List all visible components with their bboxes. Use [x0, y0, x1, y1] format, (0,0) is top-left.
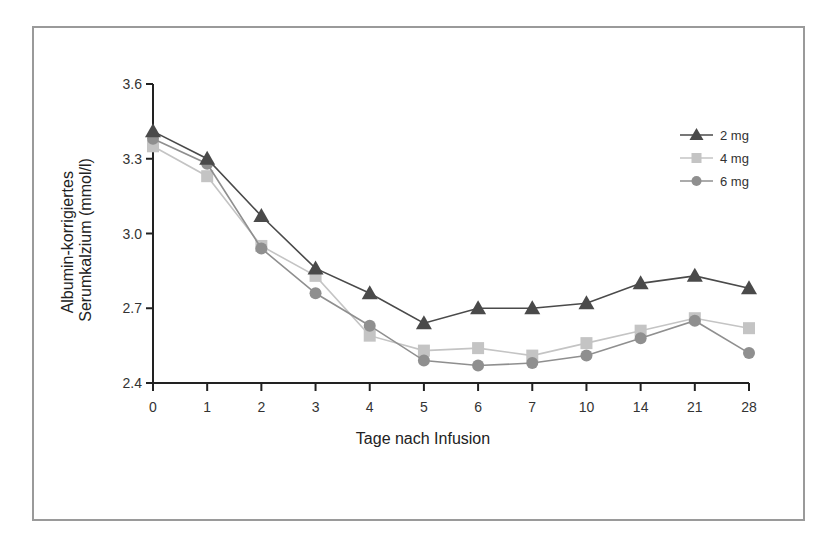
- circle-marker: [580, 350, 592, 362]
- circle-marker: [743, 347, 755, 359]
- legend-item: 2 mg: [680, 128, 749, 143]
- circle-marker: [364, 320, 376, 332]
- y-axis-title: Albumin-korrigiertes Serumkalzium (mmol/…: [59, 158, 94, 322]
- legend-item: 4 mg: [680, 151, 749, 166]
- triangle-marker: [687, 268, 703, 282]
- square-marker: [201, 170, 213, 182]
- y-tick-label: 3.3: [123, 151, 143, 167]
- square-marker: [692, 153, 702, 163]
- circle-marker: [418, 355, 430, 367]
- series-line: [153, 146, 749, 355]
- y-tick-label: 2.7: [123, 300, 143, 316]
- square-marker: [743, 322, 755, 334]
- legend-label: 6 mg: [720, 174, 749, 189]
- x-tick-label: 21: [687, 399, 703, 415]
- legend-label: 4 mg: [720, 151, 749, 166]
- series-line: [153, 139, 749, 366]
- circle-marker: [692, 176, 702, 186]
- triangle-marker: [470, 300, 486, 314]
- series-line: [153, 131, 749, 323]
- y-tick-label: 2.4: [123, 375, 143, 391]
- x-tick-label: 6: [474, 399, 482, 415]
- y-axis-title-line-2: Serumkalzium (mmol/l): [77, 158, 94, 322]
- triangle-marker: [199, 151, 215, 165]
- y-tick-label: 3.6: [123, 76, 143, 92]
- triangle-marker: [578, 295, 594, 309]
- line-chart: 2.42.73.03.33.60123456710142128 2 mg4 mg…: [0, 0, 826, 550]
- series-6-mg: [147, 133, 755, 372]
- x-axis-title: Tage nach Infusion: [356, 430, 490, 447]
- triangle-marker: [690, 128, 704, 140]
- x-tick-label: 10: [579, 399, 595, 415]
- triangle-marker: [362, 285, 378, 299]
- series-group: [145, 123, 757, 371]
- circle-marker: [689, 315, 701, 327]
- circle-marker: [255, 242, 267, 254]
- x-tick-label: 5: [420, 399, 428, 415]
- circle-marker: [472, 360, 484, 372]
- axes: 2.42.73.03.33.60123456710142128: [123, 76, 757, 415]
- circle-marker: [310, 287, 322, 299]
- circle-marker: [635, 332, 647, 344]
- series-2-mg: [145, 123, 757, 329]
- x-tick-label: 28: [741, 399, 757, 415]
- series-4-mg: [147, 140, 755, 361]
- triangle-marker: [145, 123, 161, 137]
- legend-label: 2 mg: [720, 128, 749, 143]
- x-tick-label: 1: [203, 399, 211, 415]
- y-tick-label: 3.0: [123, 226, 143, 242]
- x-tick-label: 0: [149, 399, 157, 415]
- x-tick-label: 3: [312, 399, 320, 415]
- legend: 2 mg4 mg6 mg: [680, 128, 749, 189]
- square-marker: [580, 337, 592, 349]
- x-tick-label: 14: [633, 399, 649, 415]
- legend-item: 6 mg: [680, 174, 749, 189]
- x-tick-label: 7: [528, 399, 536, 415]
- x-tick-label: 2: [257, 399, 265, 415]
- circle-marker: [526, 357, 538, 369]
- square-marker: [472, 342, 484, 354]
- x-tick-label: 4: [366, 399, 374, 415]
- y-axis-title-line-1: Albumin-korrigiertes: [59, 171, 76, 313]
